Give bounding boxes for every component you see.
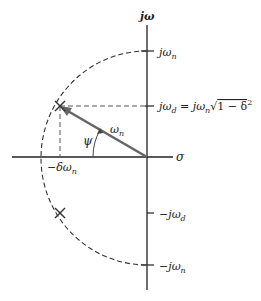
real-axis-label: σ <box>176 150 185 164</box>
vector-label: ωn <box>110 123 124 138</box>
imag-axis-label: jω <box>138 10 155 23</box>
wn-vector <box>66 110 147 157</box>
s-plane-diagram: jω σ jωn jωd = jωn√1 − δ2 −jωd −jωn −δωn… <box>0 0 261 301</box>
label-jwd: jωd = jωn√1 − δ2 <box>156 98 252 115</box>
angle-label: ψ <box>83 134 93 148</box>
label-neg-delta-wn: −δωn <box>47 161 77 176</box>
psi-angle-arc <box>93 130 100 157</box>
label-neg-jwd: −jωd <box>159 208 186 223</box>
natural-frequency-circle <box>41 51 147 265</box>
label-neg-jwn: −jωn <box>159 260 186 275</box>
label-jwn: jωn <box>156 46 177 61</box>
